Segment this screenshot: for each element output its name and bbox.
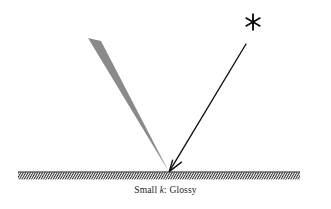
caption-prefix: Small <box>134 185 159 195</box>
asterisk-star-icon <box>246 14 261 31</box>
ground-hatching <box>18 172 300 179</box>
figure-root: Small k: Glossy <box>0 0 331 209</box>
incident-ray <box>170 44 246 170</box>
reflection-diagram-canvas <box>0 0 331 209</box>
caption-suffix: : Glossy <box>164 185 197 195</box>
glossy-specular-lobe <box>88 38 169 172</box>
figure-caption: Small k: Glossy <box>0 184 331 196</box>
